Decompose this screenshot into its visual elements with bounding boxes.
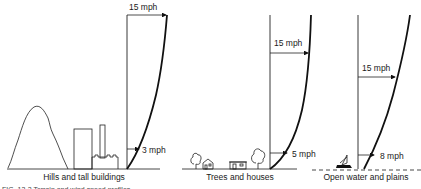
- panel-caption: Hills and tall buildings: [43, 172, 125, 182]
- sailboat-icon: [336, 155, 352, 168]
- top-speed-label: 15 mph: [362, 63, 391, 73]
- tree-icon: [191, 153, 201, 169]
- top-speed-label: 15 mph: [274, 38, 303, 48]
- wind-profile-curve: [364, 15, 410, 169]
- panel-caption: Open water and plains: [323, 172, 408, 182]
- house-icon: [229, 162, 247, 169]
- tree-icon: [252, 149, 265, 169]
- figure-caption: FIG. 13-2 Terrain and wind speed profile…: [2, 186, 131, 189]
- factory-icon: [92, 155, 118, 169]
- panel-water: 15 mph 8 mph Open water and plains: [312, 15, 421, 182]
- tall-building-icon: [74, 129, 92, 169]
- chimney-icon: [100, 125, 105, 158]
- ground-speed-label: 5 mph: [292, 149, 316, 159]
- ground-speed-label: 8 mph: [380, 151, 404, 161]
- hill-icon: [8, 106, 68, 169]
- panel-caption: Trees and houses: [206, 172, 274, 182]
- wind-profile-diagram: 15 mph 3 mph Hills and tall buildings: [0, 0, 421, 189]
- house-icon: [203, 159, 213, 169]
- top-speed-label: 15 mph: [129, 2, 158, 12]
- panel-hills: 15 mph 3 mph Hills and tall buildings: [7, 2, 167, 182]
- panel-trees: 15 mph 5 mph Trees and houses: [182, 15, 316, 182]
- ground-speed-label: 3 mph: [142, 145, 166, 155]
